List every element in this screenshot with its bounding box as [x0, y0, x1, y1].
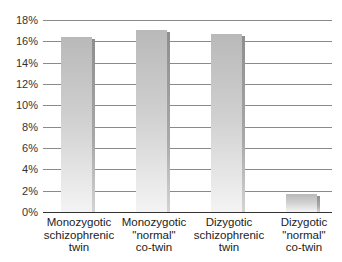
bar-shadow: [92, 39, 95, 212]
y-tick-label: 8%: [0, 121, 38, 133]
y-tick-label: 16%: [0, 35, 38, 47]
y-tick-label: 12%: [0, 78, 38, 90]
x-category-label: Dizygotic schizophrenic twin: [189, 216, 269, 254]
bar-shadow: [167, 32, 170, 212]
x-category-label: Monozygotic "normal" co-twin: [114, 216, 194, 254]
bar: [211, 34, 242, 212]
bar-chart: 0%2%4%6%8%10%12%14%16%18%Monozygotic sch…: [0, 0, 342, 262]
bar: [61, 37, 92, 212]
y-tick-label: 0%: [0, 206, 38, 218]
y-tick-label: 10%: [0, 99, 38, 111]
y-tick-label: 2%: [0, 185, 38, 197]
y-tick-label: 14%: [0, 57, 38, 69]
y-tick-label: 18%: [0, 14, 38, 26]
bar: [136, 30, 167, 212]
y-tick-label: 6%: [0, 142, 38, 154]
bar-shadow: [317, 196, 320, 212]
bar: [286, 194, 317, 212]
x-category-label: Dizygotic "normal" co-twin: [264, 216, 342, 254]
bar-shadow: [242, 36, 245, 212]
x-axis-baseline: [43, 212, 332, 213]
x-category-label: Monozygotic schizophrenic twin: [39, 216, 119, 254]
gridline: [43, 20, 332, 21]
y-tick-label: 4%: [0, 163, 38, 175]
